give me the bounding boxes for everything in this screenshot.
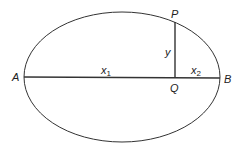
label-y: y — [164, 46, 172, 58]
label-x2-sub: 2 — [197, 69, 202, 78]
ellipse-diagram: A B P Q y x1 x2 — [0, 0, 241, 150]
major-axis-segment — [24, 77, 220, 78]
label-x1: x1 — [100, 64, 112, 78]
label-x2: x2 — [190, 64, 202, 78]
label-a: A — [11, 71, 19, 83]
label-q: Q — [170, 82, 179, 94]
label-x1-sub: 1 — [107, 69, 112, 78]
label-b: B — [224, 73, 231, 85]
label-p: P — [171, 8, 179, 20]
